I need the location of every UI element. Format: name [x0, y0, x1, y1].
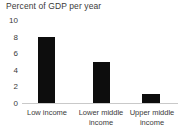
x-axis-label-lower-middle-income: Lower middle income [76, 108, 126, 127]
x-axis-line [22, 103, 178, 104]
y-tick-label-10: 10 [4, 16, 18, 25]
x-axis-label-upper-middle-income: Upper middle income [127, 108, 177, 127]
y-tick-label-2: 2 [4, 82, 18, 91]
bar-lower-middle-income [93, 62, 110, 104]
bar-chart: Percent of GDP per year 10 8 6 4 2 0 Low… [0, 0, 178, 139]
plot-area: 10 8 6 4 2 0 Low income Lower middle inc… [0, 0, 178, 139]
bar-low-income [38, 37, 55, 103]
y-tick-label-4: 4 [4, 65, 18, 74]
y-tick-label-0: 0 [4, 99, 18, 108]
x-axis-label-low-income: Low income [22, 108, 72, 118]
bar-upper-middle-income [142, 94, 160, 103]
y-tick-label-8: 8 [4, 32, 18, 41]
y-tick-label-6: 6 [4, 49, 18, 58]
